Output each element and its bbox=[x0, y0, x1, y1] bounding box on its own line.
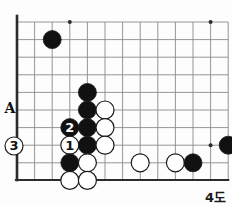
point-label-A: A bbox=[4, 100, 17, 116]
black-stone bbox=[43, 31, 61, 49]
figure-caption: 4도 bbox=[205, 191, 226, 204]
go-diagram-figure: 213 A 4도 bbox=[0, 0, 232, 206]
stone-black bbox=[219, 136, 232, 154]
white-stone bbox=[78, 171, 96, 189]
point-labels: A bbox=[4, 100, 17, 116]
white-stone bbox=[96, 101, 114, 119]
black-stone bbox=[78, 83, 96, 101]
stone-white bbox=[96, 101, 114, 119]
stone-black bbox=[184, 154, 202, 172]
stone-white bbox=[131, 154, 149, 172]
stone-white bbox=[78, 171, 96, 189]
star-point bbox=[209, 143, 213, 147]
stone-white bbox=[78, 154, 96, 172]
stone-white-move-3: 3 bbox=[5, 137, 23, 155]
stone-black bbox=[78, 101, 96, 119]
star-point bbox=[68, 20, 72, 24]
stone-black bbox=[43, 31, 61, 49]
white-stone bbox=[78, 154, 96, 172]
black-stone bbox=[78, 101, 96, 119]
stone-black bbox=[78, 83, 96, 101]
move-number-label: 1 bbox=[65, 138, 74, 153]
move-number-label: 2 bbox=[65, 120, 74, 135]
black-stone bbox=[78, 136, 96, 154]
stone-black bbox=[78, 136, 96, 154]
stone-black-move-2: 2 bbox=[61, 119, 79, 137]
white-stone bbox=[131, 154, 149, 172]
stone-white-move-1: 1 bbox=[61, 136, 79, 154]
stone-white bbox=[166, 154, 184, 172]
black-stone bbox=[219, 136, 232, 154]
black-stone bbox=[184, 154, 202, 172]
stone-black bbox=[78, 119, 96, 137]
star-point bbox=[209, 20, 213, 24]
stone-white bbox=[96, 119, 114, 137]
stone-white bbox=[61, 171, 79, 189]
white-stone bbox=[96, 119, 114, 137]
white-stone bbox=[61, 171, 79, 189]
black-stone bbox=[78, 119, 96, 137]
stone-white bbox=[96, 136, 114, 154]
white-stone bbox=[166, 154, 184, 172]
go-board: 213 A bbox=[0, 0, 232, 206]
stone-black bbox=[61, 154, 79, 172]
white-stone bbox=[96, 136, 114, 154]
move-number-label: 3 bbox=[9, 138, 18, 153]
black-stone bbox=[61, 154, 79, 172]
